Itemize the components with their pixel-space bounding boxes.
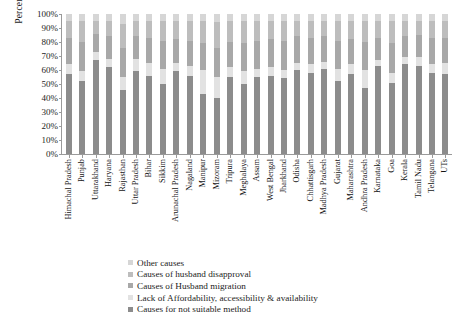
- legend-item[interactable]: Causes of husband disapproval: [128, 269, 428, 281]
- x-axis-label-cell: Manipur: [197, 159, 210, 251]
- bar-column: [129, 14, 142, 154]
- bar-segment: [321, 14, 327, 21]
- stacked-bar: [335, 14, 341, 154]
- bar-segment: [160, 14, 166, 21]
- x-axis-tick-mark: [398, 155, 411, 158]
- bar-segment: [214, 98, 220, 154]
- bar-segment: [254, 14, 260, 21]
- bar-segment: [79, 81, 85, 154]
- x-axis-tick-label: Meghalaya: [239, 159, 248, 196]
- bar-column: [291, 14, 304, 154]
- bar-segment: [389, 43, 395, 72]
- x-axis-tick-label: Andhra Pradesh: [360, 159, 369, 212]
- bar-segment: [294, 14, 300, 21]
- bar-segment: [66, 38, 72, 65]
- x-axis-label-cell: Punjab: [75, 159, 88, 251]
- bar-segment: [348, 74, 354, 154]
- bar-segment: [416, 14, 422, 21]
- bar-segment: [362, 88, 368, 154]
- bar-segment: [120, 48, 126, 77]
- x-axis-tick-label: Bihar: [145, 159, 154, 177]
- x-axis-tick-label: Punjab: [78, 159, 87, 182]
- bar-segment: [106, 36, 112, 58]
- bar-segment: [281, 21, 287, 41]
- x-axis-tick-label: Goa: [387, 159, 396, 173]
- x-axis-tick-mark: [223, 155, 236, 158]
- y-axis-tick-label: 10%: [42, 136, 59, 145]
- bar-segment: [254, 69, 260, 77]
- bar-segment: [66, 74, 72, 154]
- x-axis-tick-label: Arunachal Pradesh: [172, 159, 181, 222]
- x-axis-tick-mark: [102, 155, 115, 158]
- x-axis-tick-mark: [304, 155, 317, 158]
- bar-segment: [335, 69, 341, 82]
- bar-segment: [268, 67, 274, 75]
- bar-segment: [79, 14, 85, 21]
- x-axis-label-cell: Haryana: [102, 159, 115, 251]
- x-axis-label-cell: Nagaland: [183, 159, 196, 251]
- stacked-bar: [429, 14, 435, 154]
- bar-segment: [389, 83, 395, 154]
- bar-column: [183, 14, 196, 154]
- bar-segment: [66, 64, 72, 74]
- bar-segment: [66, 14, 72, 21]
- bar-segment: [442, 38, 448, 63]
- bar-segment: [389, 73, 395, 83]
- x-axis-tick-label: Nagaland: [186, 159, 195, 191]
- bar-segment: [429, 14, 435, 21]
- plot-area: 0%10%20%30%40%50%60%70%80%90%100%: [62, 14, 452, 154]
- x-axis-tick-mark: [197, 155, 210, 158]
- bar-segment: [281, 70, 287, 78]
- bar-segment: [268, 14, 274, 21]
- x-axis-tick-label: Sikkim: [159, 159, 168, 183]
- bar-segment: [214, 22, 220, 47]
- legend-item[interactable]: Lack of Affordability, accessibility & a…: [128, 292, 428, 304]
- legend-item[interactable]: Causes of Husband migration: [128, 280, 428, 292]
- stacked-bar: [375, 14, 381, 154]
- bar-segment: [120, 90, 126, 154]
- stacked-bar: [308, 14, 314, 154]
- x-axis-tick-mark: [170, 155, 183, 158]
- x-axis-tick-mark: [183, 155, 196, 158]
- bar-segment: [146, 14, 152, 21]
- legend-item[interactable]: Other causes: [128, 257, 428, 269]
- y-axis-tick-label: 50%: [42, 80, 59, 89]
- bar-segment: [375, 38, 381, 60]
- bar-segment: [173, 14, 179, 21]
- bar-segment: [106, 14, 112, 21]
- bar-segment: [442, 63, 448, 74]
- bar-column: [264, 14, 277, 154]
- bar-segment: [227, 77, 233, 154]
- bar-column: [345, 14, 358, 154]
- bar-segment: [294, 63, 300, 70]
- legend-item[interactable]: Causes for not suitable method: [128, 303, 428, 315]
- bar-segment: [321, 36, 327, 61]
- bar-segment: [362, 14, 368, 21]
- stacked-bar: [294, 14, 300, 154]
- x-axis-tick-label: Assam: [253, 159, 262, 182]
- bar-segment: [335, 41, 341, 69]
- x-axis-tick-mark: [425, 155, 438, 158]
- x-axis-tick-label: Madhya Pradesh: [320, 159, 329, 215]
- stacked-bar: [416, 14, 422, 154]
- bar-segment: [133, 59, 139, 72]
- bar-segment: [294, 21, 300, 36]
- stacked-bar: [146, 14, 152, 154]
- bar-segment: [120, 24, 126, 48]
- bar-segment: [321, 21, 327, 36]
- x-axis-tick-label: Odisha: [293, 159, 302, 183]
- x-axis-label-cell: Kerala: [398, 159, 411, 251]
- x-axis-tick-label: Himachal Pradesh: [64, 159, 73, 220]
- x-axis-label-cell: Uttar Pradesh: [129, 159, 142, 251]
- legend-item-label: Causes of Husband migration: [137, 281, 246, 291]
- bar-segment: [362, 70, 368, 88]
- bar-segment: [133, 71, 139, 154]
- bar-segment: [200, 43, 206, 70]
- bar-segment: [402, 21, 408, 36]
- x-axis-label-cell: Chhattisgarh: [304, 159, 317, 251]
- bar-column: [237, 14, 250, 154]
- legend-item-label: Other causes: [137, 258, 184, 268]
- bar-segment: [254, 21, 260, 41]
- bar-segment: [254, 77, 260, 154]
- x-axis-tick-mark: [277, 155, 290, 158]
